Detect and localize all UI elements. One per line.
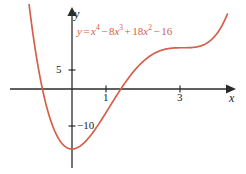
equation-term4-coef: 16 <box>161 25 172 37</box>
y-tick-label-5: 5 <box>56 64 62 75</box>
equation-term4-sign: − <box>152 25 161 37</box>
y-axis-label: y <box>74 8 79 20</box>
equation-equals: = <box>82 25 91 37</box>
equation-term2-sign: − <box>100 25 109 37</box>
equation-term3-sign: + <box>123 25 132 37</box>
y-tick-label-neg10: −10 <box>77 120 94 131</box>
equation-term3-coef: 18 <box>132 25 143 37</box>
x-tick-label-3: 3 <box>177 92 183 103</box>
x-tick-label-1: 1 <box>103 92 109 103</box>
equation-annotation: y=x4−8x3+18x2−16 <box>77 26 172 37</box>
graph-figure: y x 5 −10 1 3 y=x4−8x3+18x2−16 <box>0 0 246 174</box>
x-axis-label: x <box>229 92 234 104</box>
